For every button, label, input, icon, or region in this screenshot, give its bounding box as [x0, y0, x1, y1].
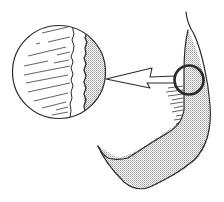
- arrow-icon: [106, 68, 176, 88]
- magnified-inset: [13, 20, 111, 125]
- magnified-detail-illustration: [0, 0, 224, 202]
- curved-band-structure: [98, 12, 210, 189]
- band-fill: [98, 30, 210, 189]
